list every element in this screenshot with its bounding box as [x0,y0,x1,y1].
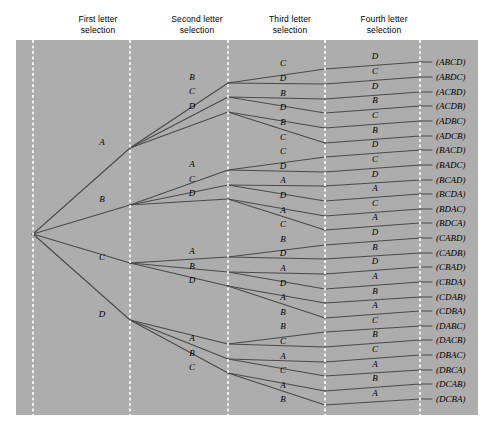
outcome-label-19: (DACB) [436,335,466,345]
outcome-label-18: (DABC) [436,321,466,331]
node-label-level4-18: C [372,315,379,325]
outcome-label-14: (CBAD) [436,262,466,272]
node-label-level2-8: D [188,275,196,285]
outcome-label-8: (BCAD) [436,175,466,185]
node-label-level4-7: C [372,154,379,164]
node-label-level4-8: D [371,169,379,179]
node-label-level4-19: B [372,329,378,339]
node-label-level3-3: D [279,102,287,112]
outcome-label-9: (BCDA) [436,189,466,199]
node-label-level4-10: C [372,198,379,208]
node-label-level3-1: D [279,73,287,83]
outcome-label-10: (BDAC) [436,204,466,214]
node-label-level3-10: A [279,205,286,215]
node-label-level2-3: A [188,159,195,169]
node-label-level3-9: D [279,190,287,200]
node-label-level1-0: A [98,137,105,147]
node-label-level2-1: C [189,86,196,96]
node-label-level2-6: A [188,246,195,256]
node-label-level2-4: C [189,174,196,184]
outcome-label-0: (ABCD) [436,57,466,67]
node-label-level4-1: C [372,66,379,76]
node-label-level3-14: A [279,263,286,273]
node-label-level3-22: A [279,380,286,390]
node-label-level4-20: C [372,344,379,354]
outcome-label-22: (DCAB) [436,379,466,389]
node-label-level2-10: B [189,348,195,358]
outcome-label-4: (ADBC) [436,116,466,126]
node-label-level4-11: A [371,212,378,222]
node-label-level1-1: B [99,194,105,204]
outcome-label-5: (ADCB) [436,131,466,141]
outcome-label-15: (CBDA) [436,277,466,287]
node-label-level2-2: D [188,101,196,111]
node-label-level3-12: B [280,234,286,244]
outcome-label-13: (CADB) [436,248,466,258]
node-label-level3-16: A [279,292,286,302]
node-label-level4-2: D [371,81,379,91]
outcome-label-20: (DBAC) [436,350,466,360]
node-label-level4-17: A [371,300,378,310]
node-label-level4-5: B [372,125,378,135]
outcome-label-23: (DCBA) [436,394,466,404]
outcome-label-1: (ABDC) [436,72,466,82]
node-label-level3-19: C [280,336,287,346]
node-label-level4-16: B [372,286,378,296]
node-label-level4-14: D [371,256,379,266]
node-label-level4-15: A [371,271,378,281]
node-label-level4-13: B [372,242,378,252]
node-label-level3-7: D [279,161,287,171]
node-label-level4-9: A [371,183,378,193]
node-label-level4-6: D [371,139,379,149]
outcome-label-21: (DBCA) [436,365,466,375]
node-label-level4-23: A [371,388,378,398]
node-label-level2-11: C [189,362,196,372]
node-label-level3-20: A [279,351,286,361]
node-label-level2-5: D [188,188,196,198]
node-label-level2-0: B [189,72,195,82]
node-label-level3-15: D [279,278,287,288]
node-label-level3-13: D [279,248,287,258]
diagram-panel-background [16,40,478,415]
node-label-level3-17: B [280,307,286,317]
node-label-level3-8: A [279,175,286,185]
node-label-level3-0: C [280,58,287,68]
node-label-level1-3: D [98,309,106,319]
node-label-level3-18: B [280,321,286,331]
permutation-tree: ABCDBCDACDABDABCCDBDBCCDADACBDADABBCACAB… [0,0,493,434]
outcome-label-16: (CDAB) [436,292,466,302]
outcome-label-7: (BADC) [436,160,466,170]
node-label-level3-6: C [280,146,287,156]
outcome-label-12: (CABD) [436,233,466,243]
node-label-level3-11: C [280,219,287,229]
node-label-level3-21: C [280,365,287,375]
outcome-label-11: (BDCA) [436,218,466,228]
tree-diagram-figure: First letter selection Second letter sel… [0,0,493,434]
node-label-level4-4: C [372,110,379,120]
node-label-level4-12: D [371,227,379,237]
node-label-level3-2: B [280,88,286,98]
outcome-label-17: (CDBA) [436,306,466,316]
outcome-label-2: (ACBD) [436,87,466,97]
node-label-level4-22: B [372,373,378,383]
node-label-level3-23: B [280,394,286,404]
node-label-level4-3: B [372,95,378,105]
node-label-level4-0: D [371,51,379,61]
node-label-level3-5: C [280,132,287,142]
outcome-label-6: (BACD) [436,145,466,155]
node-label-level2-7: B [189,261,195,271]
node-label-level2-9: A [188,333,195,343]
outcome-label-3: (ACDB) [436,101,466,111]
node-label-level3-4: B [280,117,286,127]
node-label-level1-2: C [99,252,106,262]
node-label-level4-21: A [371,359,378,369]
